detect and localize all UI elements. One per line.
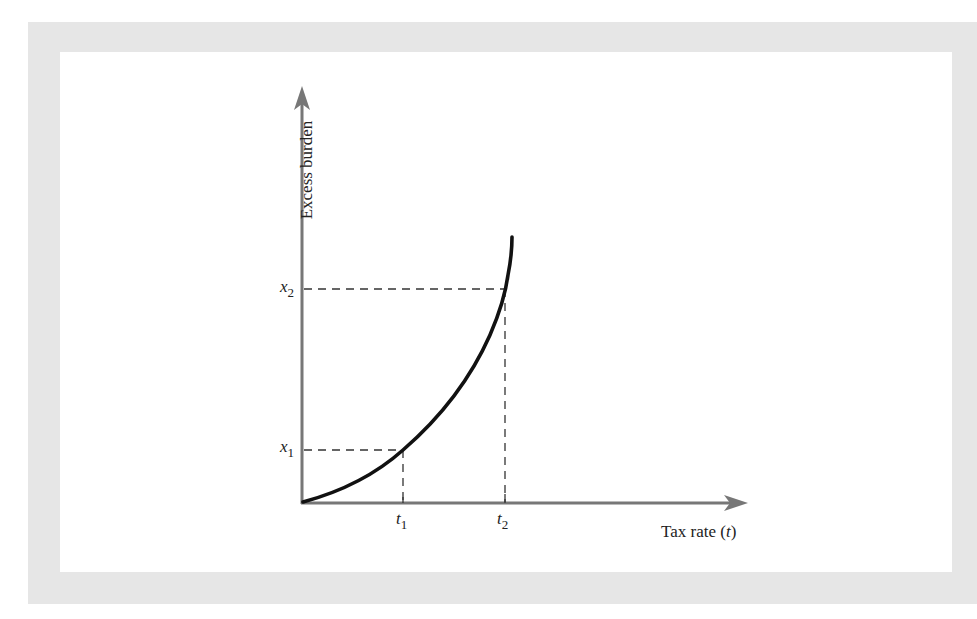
excess-burden-diagram — [0, 0, 977, 619]
excess-burden-curve — [303, 237, 512, 502]
t2-label: t2 — [497, 510, 508, 527]
t1-label: t1 — [396, 510, 407, 527]
x-axis-label: Tax rate (t) — [661, 523, 736, 540]
x1-label: x1 — [280, 438, 294, 455]
guide-lines — [304, 289, 505, 502]
x2-label: x2 — [280, 278, 294, 295]
y-axis-label: Excess burden — [297, 100, 317, 240]
